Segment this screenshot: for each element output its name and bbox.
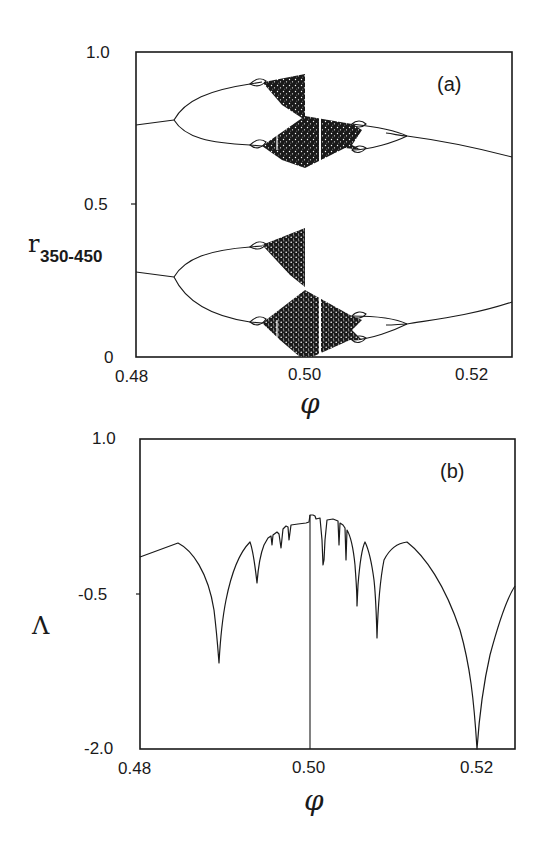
- panel-a-ytick-1.0: 1.0: [86, 43, 110, 62]
- figure: 1.0 0.5 0 0.48 0.50 0.52 (a) r 350-450 φ…: [0, 0, 554, 852]
- panel-b-xtick-0.52: 0.52: [460, 758, 493, 777]
- panel-b-xtick-0.48: 0.48: [118, 759, 151, 778]
- panel-a-lower-chaos-1: [262, 228, 305, 287]
- panel-b: 1.0 -0.5 -2.0 0.48 0.50 0.52 (b) Λ φ: [31, 429, 515, 817]
- panel-a-ytick-0: 0: [104, 348, 113, 367]
- panel-a-xtick-0.52: 0.52: [455, 365, 488, 384]
- panel-b-ytick-1.0: 1.0: [92, 429, 116, 448]
- panel-a-ytick-0.5: 0.5: [84, 195, 108, 214]
- panel-a-ylabel-main: r: [28, 230, 40, 258]
- panel-a-ylabel-sub: 350-450: [40, 247, 102, 266]
- panel-a-xlabel: φ: [300, 387, 320, 420]
- panel-b-xlabel: φ: [304, 784, 324, 817]
- panel-b-ylabel: Λ: [31, 612, 50, 640]
- panel-a-xtick-0.48: 0.48: [115, 367, 148, 386]
- panel-a-tag: (a): [437, 73, 461, 95]
- panel-b-tag: (b): [440, 460, 464, 482]
- panel-a: 1.0 0.5 0 0.48 0.50 0.52 (a) r 350-450 φ: [28, 43, 512, 420]
- panel-a-xtick-0.50: 0.50: [288, 365, 321, 384]
- panel-b-lyapunov-curve: [140, 515, 515, 749]
- panel-a-upper-chaos-1: [264, 74, 305, 120]
- panel-b-ytick--2.0: -2.0: [84, 739, 113, 758]
- panel-b-ytick--0.5: -0.5: [78, 585, 107, 604]
- panel-b-xtick-0.50: 0.50: [292, 758, 325, 777]
- panel-b-frame: [140, 439, 515, 749]
